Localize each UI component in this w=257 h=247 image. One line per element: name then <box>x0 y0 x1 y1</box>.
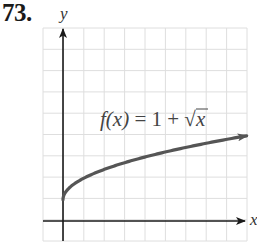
function-label-eq: = 1 + <box>129 107 184 131</box>
grid <box>43 28 247 241</box>
function-label: f(x) = 1 + √x <box>100 107 206 131</box>
y-axis-label: y <box>58 4 68 23</box>
function-label-lhs: f(x) <box>100 107 129 131</box>
x-axis-label: x <box>249 210 257 229</box>
graph: y x f(x) = 1 + √x <box>0 0 257 247</box>
function-label-radicand: x <box>195 107 206 131</box>
function-curve <box>63 136 247 200</box>
radical-sign: √ <box>184 107 196 131</box>
